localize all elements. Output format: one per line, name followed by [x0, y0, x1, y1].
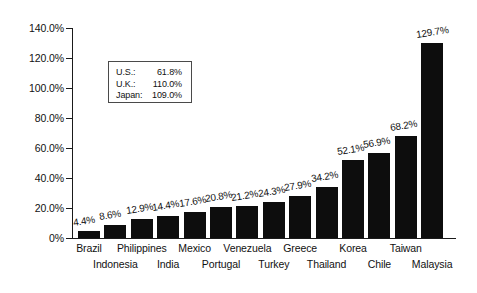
y-axis-label-slot: 20.0% [0, 208, 64, 209]
x-axis-category-label: Malaysia [392, 259, 472, 270]
bar [289, 196, 311, 238]
y-axis-label-slot: 100.0% [0, 88, 64, 89]
reference-value-row: U.K.:110.0% [109, 79, 191, 91]
bar [78, 231, 100, 238]
reference-value-row: Japan:109.0% [109, 90, 191, 102]
reference-value-number: 110.0% [150, 79, 185, 91]
bar [184, 212, 206, 238]
bar [316, 187, 338, 238]
y-axis-tick-label: 120.0% [2, 53, 64, 64]
bar [236, 206, 258, 238]
x-axis-category-label: Taiwan [366, 243, 446, 254]
y-axis-tick-label: 20.0% [2, 203, 64, 214]
y-axis-label-slot: 80.0% [0, 118, 64, 119]
reference-value-number: 109.0% [150, 90, 185, 102]
reference-value-name: U.K.: [116, 79, 150, 91]
y-axis-tick-label: 40.0% [2, 173, 64, 184]
bar [263, 202, 285, 238]
y-axis-tick [66, 238, 73, 239]
y-axis-tick-label: 100.0% [2, 83, 64, 94]
reference-value-name: Japan: [116, 90, 150, 102]
bar [131, 219, 153, 238]
bar [368, 153, 390, 238]
y-axis-tick-label: 140.0% [2, 23, 64, 34]
bar-chart: 0%20.0%40.0%60.0%80.0%100.0%120.0%140.0%… [0, 0, 477, 293]
x-axis-line [72, 238, 456, 239]
bar [104, 225, 126, 238]
y-axis-label-slot: 0% [0, 238, 64, 239]
y-axis-tick-label: 80.0% [2, 113, 64, 124]
reference-value-name: U.S.: [116, 67, 150, 79]
y-axis-label-slot: 120.0% [0, 58, 64, 59]
y-axis-label-slot: 40.0% [0, 178, 64, 179]
y-axis-tick-label: 60.0% [2, 143, 64, 154]
bar [395, 136, 417, 238]
y-axis-label-slot: 60.0% [0, 148, 64, 149]
reference-value-number: 61.8% [150, 67, 185, 79]
reference-values-box: U.S.:61.8%U.K.:110.0%Japan:109.0% [108, 61, 192, 103]
y-axis-label-slot: 140.0% [0, 28, 64, 29]
bar [210, 207, 232, 238]
bar [157, 216, 179, 238]
bar [421, 43, 443, 238]
y-axis-tick-label: 0% [2, 233, 64, 244]
bar [342, 160, 364, 238]
reference-value-row: U.S.:61.8% [109, 67, 191, 79]
